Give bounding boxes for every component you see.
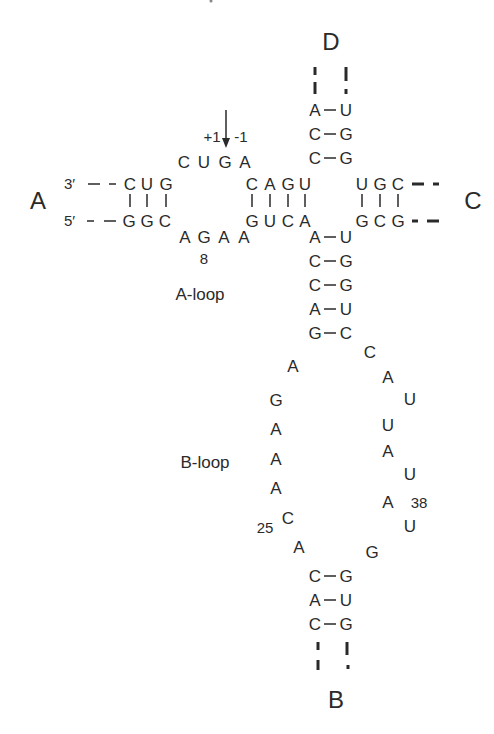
nucleotide: A (309, 101, 321, 120)
nucleotide: A (309, 228, 321, 247)
nucleotide: A (287, 357, 299, 376)
nucleotide: A (293, 538, 305, 557)
nucleotide: U (340, 101, 352, 120)
nucleotide: C (392, 175, 404, 194)
nucleotide: C (364, 343, 376, 362)
nucleotide: G (197, 228, 210, 247)
nucleotide: C (309, 567, 321, 586)
nucleotide: G (365, 543, 378, 562)
helix-label-d: D (322, 28, 339, 55)
cleavage-minus-one: -1 (234, 128, 247, 145)
nucleotide: C (309, 125, 321, 144)
nucleotide: C (374, 212, 386, 231)
five-prime-label: 5′ (64, 212, 75, 229)
nucleotide: C (159, 212, 171, 231)
nucleotide: G (218, 153, 231, 172)
helix-label-a: A (30, 187, 46, 214)
nucleotide: G (308, 324, 321, 343)
helix-a: C U G G G C (122, 175, 172, 231)
nucleotide: C (309, 149, 321, 168)
position-number-25: 25 (257, 519, 274, 536)
nucleotide: G (339, 125, 352, 144)
nucleotide: A (382, 493, 394, 512)
nucleotide: U (404, 390, 416, 409)
nucleotide: C (309, 615, 321, 634)
helix-d-continuation (315, 67, 346, 94)
nucleotide: C (282, 509, 294, 528)
nucleotide: A (270, 479, 282, 498)
nucleotide: G (339, 252, 352, 271)
nucleotide: G (373, 175, 386, 194)
nucleotide: A (309, 591, 321, 610)
nucleotide: A (270, 450, 282, 469)
nucleotide: C (340, 324, 352, 343)
nucleotide: G (339, 567, 352, 586)
nucleotide: U (382, 416, 394, 435)
nucleotide: G (339, 276, 352, 295)
nucleotide: A (270, 420, 282, 439)
nucleotide: G (339, 615, 352, 634)
rna-secondary-structure-diagram: D A U C G C G +1 -1 C U G A A 3′ 5′ (0, 0, 494, 734)
three-prime-label: 3′ (64, 175, 75, 192)
nucleotide: C (246, 175, 258, 194)
position-number-38: 38 (411, 494, 428, 511)
nucleotide: G (339, 149, 352, 168)
a-loop-bottom-strand: A G A A (179, 228, 250, 247)
helix-label-b: B (328, 686, 344, 713)
a-loop-top-strand: C U G A (178, 153, 251, 172)
a-loop-label: A-loop (175, 285, 224, 304)
helix-b-lower: C G A U C G (309, 567, 353, 634)
nucleotide: A (239, 153, 251, 172)
b-loop-left-strand: A G A A A C A (269, 357, 305, 557)
nucleotide: U (141, 175, 153, 194)
helix-j: C A G U G U C A (245, 175, 311, 231)
nucleotide: U (340, 300, 352, 319)
nucleotide: U (340, 591, 352, 610)
nucleotide: U (340, 228, 352, 247)
position-number-8: 8 (200, 250, 208, 267)
helix-b-continuation (318, 642, 348, 670)
nucleotide: G (281, 175, 294, 194)
nucleotide: C (178, 153, 190, 172)
helix-c-continuation (412, 184, 439, 221)
nucleotide: A (218, 228, 230, 247)
nucleotide: G (140, 212, 153, 231)
nucleotide: U (404, 465, 416, 484)
nucleotide: C (309, 276, 321, 295)
nucleotide: C (124, 175, 136, 194)
nucleotide: G (269, 391, 282, 410)
nucleotide: A (264, 175, 276, 194)
helix-d: A U C G C G (309, 101, 353, 168)
nucleotide: A (309, 300, 321, 319)
nucleotide: C (309, 252, 321, 271)
b-loop-right-strand: C A U U A U A U G (364, 343, 416, 562)
nucleotide: G (159, 175, 172, 194)
nucleotide: G (391, 212, 404, 231)
nucleotide: G (122, 212, 135, 231)
nucleotide: G (355, 212, 368, 231)
nucleotide: A (382, 368, 394, 387)
nucleotide: C (282, 212, 294, 231)
nucleotide: A (238, 228, 250, 247)
nucleotide: U (198, 153, 210, 172)
nucleotide: A (179, 228, 191, 247)
cleavage-site-arrow (222, 110, 230, 148)
nucleotide: U (404, 517, 416, 536)
nucleotide: U (299, 175, 311, 194)
b-loop-label: B-loop (180, 453, 229, 472)
helix-c: U G C G C G (355, 175, 404, 231)
nucleotide: U (264, 212, 276, 231)
nucleotide: A (382, 442, 394, 461)
helix-label-c: C (464, 187, 481, 214)
cleavage-plus-one: +1 (203, 128, 220, 145)
stray-mark (210, 0, 213, 3)
helix-b-upper: A U C G C G A U G C (308, 228, 352, 343)
nucleotide: U (356, 175, 368, 194)
